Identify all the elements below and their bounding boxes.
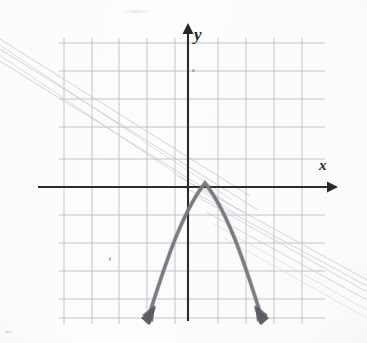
stray-marks-layer	[0, 0, 367, 343]
stray-pencil-dot	[109, 257, 112, 261]
stray-pencil-dot	[191, 69, 195, 73]
scan-smudge	[5, 331, 14, 333]
graph-screenshot: y x	[0, 0, 367, 343]
scan-smudge	[120, 9, 154, 14]
